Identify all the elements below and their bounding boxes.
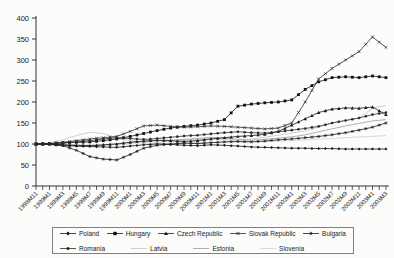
legend-item-romania: Romania [60, 245, 105, 252]
marker-diamond [203, 144, 206, 147]
marker-circle [304, 127, 307, 130]
marker-circle [142, 138, 145, 141]
marker-circle [82, 140, 85, 143]
marker-circle [196, 134, 199, 137]
y-tick-label: 200 [16, 98, 29, 107]
legend-marker-triangle-icon [158, 230, 174, 237]
legend-label: Romania [79, 245, 105, 252]
marker-diamond [270, 146, 273, 149]
y-tick-label: 350 [16, 35, 29, 44]
marker-square [257, 102, 260, 105]
marker-diamond [297, 147, 300, 150]
marker-circle [136, 138, 139, 141]
marker-circle [237, 131, 240, 134]
legend-label: Latvia [150, 245, 167, 252]
marker-diamond [230, 144, 233, 147]
legend-marker-circle-icon [60, 245, 76, 252]
marker-circle [351, 118, 354, 121]
marker-diamond [109, 146, 112, 149]
marker-square [311, 84, 314, 87]
series-line-slovak-republic [36, 37, 386, 144]
legend-item-latvia: Latvia [131, 245, 167, 252]
marker-circle [176, 135, 179, 138]
marker-diamond [358, 148, 361, 151]
marker-circle [250, 131, 253, 134]
marker-circle [109, 137, 112, 140]
legend-marker-none-icon [193, 245, 209, 252]
marker-circle [169, 136, 172, 139]
marker-square [136, 134, 139, 137]
marker-diamond [304, 147, 307, 150]
marker-diamond [378, 148, 381, 151]
legend-row: PolandHungaryCzech RepublicSlovak Republ… [60, 230, 346, 237]
marker-diamond [196, 144, 199, 147]
legend-item-bulgaria: Bulgaria [303, 230, 346, 237]
legend-label: Slovenia [279, 245, 304, 252]
legend-label: Bulgaria [322, 230, 346, 237]
y-tick-label: 0 [25, 182, 29, 191]
marker-square [270, 101, 273, 104]
marker-square [216, 120, 219, 123]
marker-circle [324, 123, 327, 126]
marker-diamond [277, 146, 280, 149]
marker-square [156, 129, 159, 132]
marker-diamond [129, 145, 132, 148]
marker-circle [48, 143, 51, 146]
marker-circle [338, 120, 341, 123]
legend-item-hungary: Hungary [107, 230, 151, 237]
marker-diamond [331, 147, 334, 150]
marker-square [331, 76, 334, 79]
marker-square [351, 76, 354, 79]
legend-row: RomaniaLatviaEstoniaSlovenia [60, 245, 346, 252]
marker-circle [284, 130, 287, 133]
marker-square [162, 128, 165, 131]
marker-diamond [344, 148, 347, 151]
chart-figure: 0501001502002503003504001998M111999M1199… [0, 0, 394, 258]
marker-circle [75, 141, 78, 144]
marker-square [230, 112, 233, 115]
marker-circle [344, 119, 347, 122]
marker-square [358, 76, 361, 79]
marker-circle [230, 131, 233, 134]
marker-circle [156, 137, 159, 140]
marker-square [284, 100, 287, 103]
y-tick-label: 50 [21, 161, 29, 170]
marker-diamond [115, 146, 118, 149]
marker-diamond [310, 147, 313, 150]
marker-circle [358, 117, 361, 120]
marker-circle [89, 139, 92, 142]
marker-square [149, 131, 152, 134]
y-tick-label: 250 [16, 77, 29, 86]
marker-square [364, 75, 367, 78]
legend-marker-asterisk-icon [303, 230, 319, 237]
legend-label: Czech Republic [177, 230, 223, 237]
marker-diamond [216, 144, 219, 147]
legend-label: Slovak Republic [249, 230, 296, 237]
marker-circle [102, 138, 105, 141]
marker-circle [364, 115, 367, 118]
marker-circle [243, 131, 246, 134]
marker-square [263, 101, 266, 104]
marker-diamond [257, 146, 260, 149]
marker-diamond [135, 144, 138, 147]
marker-circle [68, 141, 71, 144]
marker-diamond [122, 145, 125, 148]
marker-square [250, 103, 253, 106]
legend-label: Poland [79, 230, 99, 237]
legend-label: Estonia [212, 245, 234, 252]
marker-circle [264, 132, 267, 135]
marker-circle [277, 131, 280, 134]
legend-item-slovenia: Slovenia [260, 245, 304, 252]
marker-circle [371, 113, 374, 116]
marker-square [304, 88, 307, 91]
marker-diamond [223, 144, 226, 147]
legend-marker-x-icon [230, 230, 246, 237]
marker-circle [203, 133, 206, 136]
marker-square [243, 104, 246, 107]
marker-circle [290, 129, 293, 132]
marker-circle [210, 133, 213, 136]
marker-diamond [236, 145, 239, 148]
legend-marker-none-icon [131, 245, 147, 252]
marker-diamond [284, 146, 287, 149]
marker-circle [311, 126, 314, 129]
